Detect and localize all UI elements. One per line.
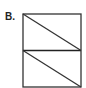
lower-diagonal (23, 51, 81, 88)
upper-diagonal (23, 14, 81, 51)
divided-rectangle-diagram (0, 0, 86, 88)
